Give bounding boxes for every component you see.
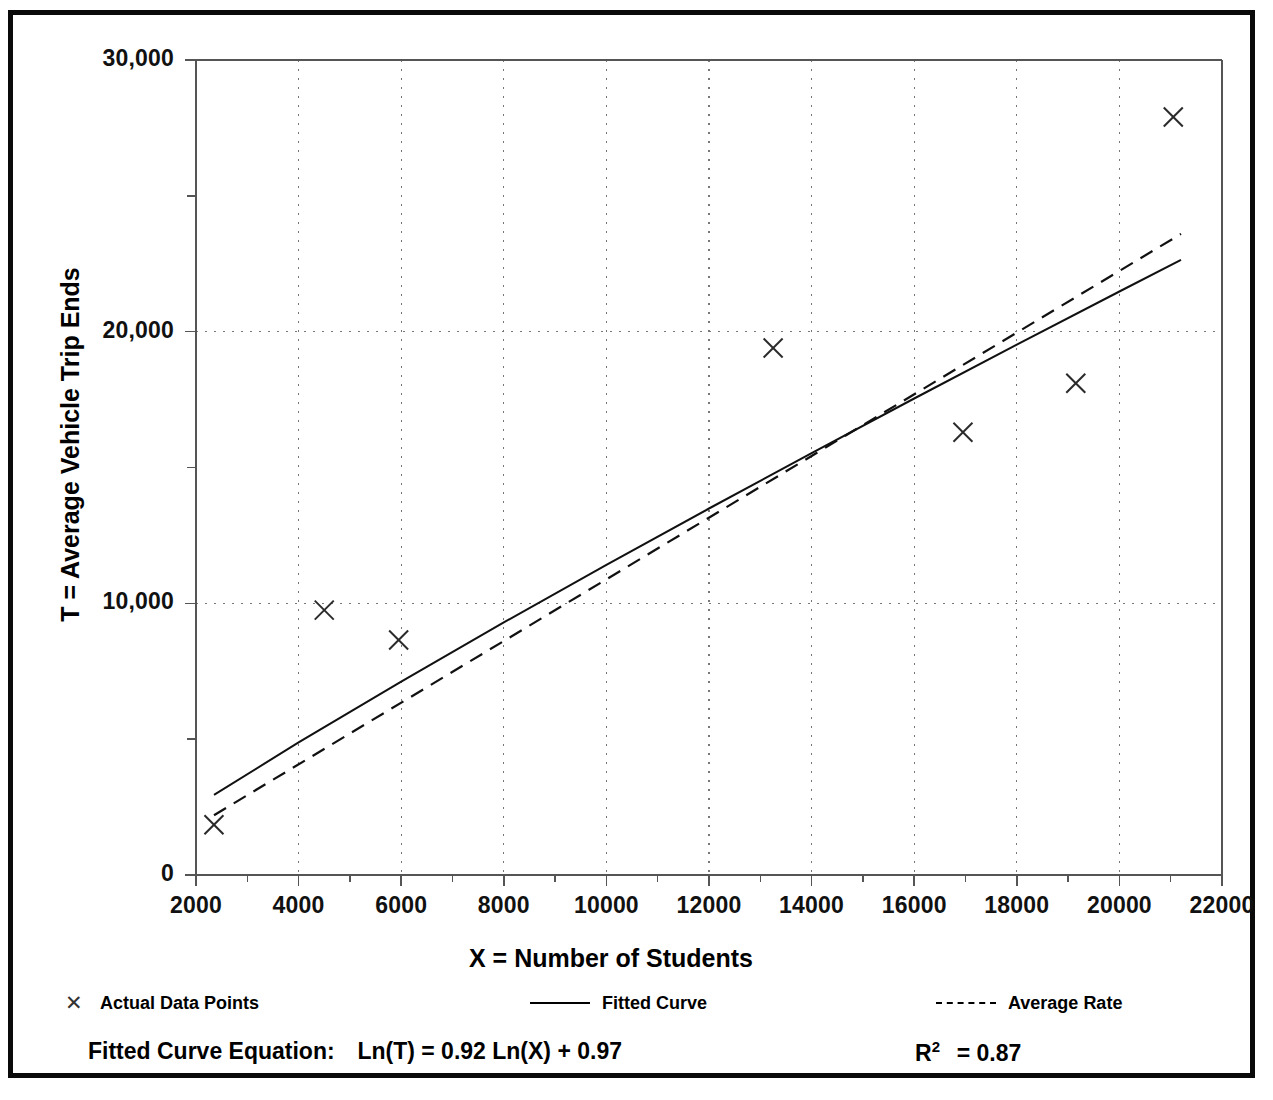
legend-label: Fitted Curve (602, 993, 707, 1014)
plot-canvas (0, 0, 1273, 1100)
y-tick-label: 30,000 (24, 45, 174, 72)
axis-lines (196, 60, 1222, 875)
equation-row: Fitted Curve Equation: Ln(T) = 0.92 Ln(X… (60, 1038, 1210, 1078)
legend-item-actual-data-points[interactable]: ✕ Actual Data Points (60, 988, 259, 1018)
legend-item-fitted-curve[interactable]: Fitted Curve (530, 988, 707, 1018)
chart-legend: ✕ Actual Data Points Fitted Curve Averag… (60, 988, 1210, 1022)
x-tick-label: 22000 (1162, 892, 1273, 919)
gridlines (196, 60, 1222, 875)
fitted-curve-equation: Fitted Curve Equation: Ln(T) = 0.92 Ln(X… (88, 1038, 622, 1065)
axis-ticks (185, 60, 1222, 886)
y-tick-label: 0 (24, 860, 174, 887)
dashed-line-icon (936, 994, 996, 1012)
chart-area: 010,00020,00030,000 20004000600080001000… (0, 0, 1273, 1100)
x-axis-title: X = Number of Students (396, 944, 826, 973)
r-squared-value: = 0.87 (957, 1040, 1022, 1066)
r-squared-label: R (915, 1040, 932, 1066)
y-axis-title: T = Average Vehicle Trip Ends (56, 235, 85, 655)
marker-x-icon: ✕ (60, 994, 88, 1012)
legend-item-average-rate[interactable]: Average Rate (936, 988, 1122, 1018)
y-tick-label: 10,000 (24, 588, 174, 615)
legend-label: Average Rate (1008, 993, 1122, 1014)
solid-line-icon (530, 994, 590, 1012)
r-squared-exponent: 2 (932, 1038, 940, 1055)
legend-label: Actual Data Points (100, 993, 259, 1014)
equation-label: Fitted Curve Equation: (88, 1038, 335, 1064)
series-layer (204, 108, 1182, 835)
equation-expression: Ln(T) = 0.92 Ln(X) + 0.97 (357, 1038, 622, 1064)
y-tick-label: 20,000 (24, 317, 174, 344)
r-squared: R2 = 0.87 (915, 1038, 1021, 1067)
